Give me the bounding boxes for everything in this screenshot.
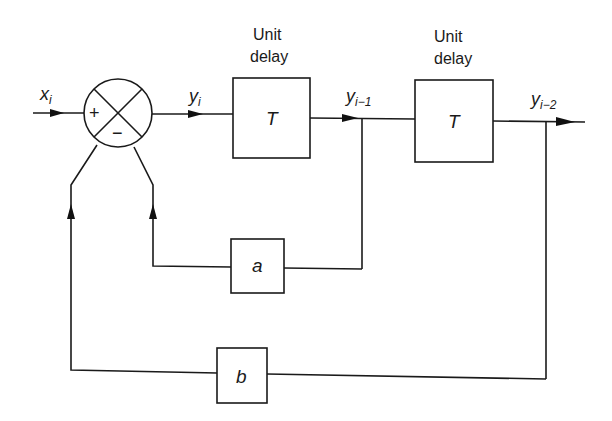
signal-y-i: yi — [152, 86, 233, 118]
feedback-path-b: b — [67, 145, 546, 403]
block-diagram: xi + − yi Unit delay T yi−1 Unit delay T — [0, 0, 612, 421]
delay-2-title-line2: delay — [434, 50, 472, 67]
delay-2-title-line1: Unit — [434, 28, 463, 45]
y-i-minus-1-label: yi−1 — [344, 86, 371, 109]
minus-sign: − — [112, 123, 123, 143]
a-feedback-arrow-icon — [149, 204, 157, 219]
y-i-minus-1-arrow-icon — [342, 114, 358, 122]
a-left-line — [134, 147, 231, 267]
b-right-line — [267, 374, 546, 379]
b-feedback-arrow-icon — [67, 204, 75, 219]
delay-1-title-line1: Unit — [253, 26, 282, 43]
y-i-arrow-icon — [188, 110, 203, 118]
feedback-path-a: a — [134, 147, 362, 293]
input-signal: xi — [33, 84, 85, 117]
unit-delay-block-1: Unit delay T — [233, 26, 310, 158]
gain-a-symbol: a — [252, 255, 263, 276]
input-arrow-icon — [50, 109, 64, 117]
y-i-label: yi — [187, 86, 201, 109]
signal-y-i-minus-1: yi−1 — [310, 86, 415, 269]
signal-y-i-minus-2: yi−2 — [493, 89, 585, 379]
gain-b-symbol: b — [236, 366, 247, 387]
y-i-minus-2-label: yi−2 — [529, 89, 557, 112]
delay-1-title-line2: delay — [250, 48, 288, 65]
input-label: xi — [39, 84, 52, 107]
summing-junction: + − — [84, 79, 152, 147]
b-left-line — [71, 145, 217, 373]
delay-2-symbol: T — [448, 111, 461, 132]
a-right-line — [284, 268, 362, 269]
y-i-minus-2-arrow-icon — [556, 117, 575, 126]
delay-1-symbol: T — [266, 108, 279, 129]
unit-delay-block-2: Unit delay T — [415, 28, 493, 162]
plus-sign: + — [89, 103, 100, 123]
